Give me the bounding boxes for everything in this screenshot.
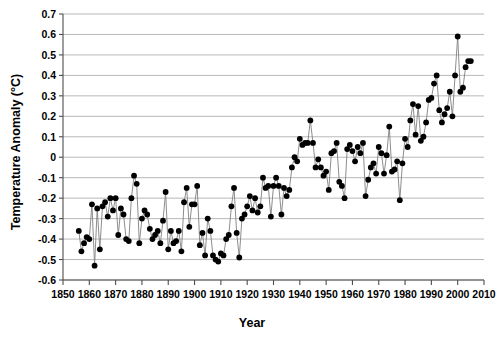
y-tick-label: 0.5	[22, 50, 56, 60]
y-tick-label: -0.2	[22, 193, 56, 203]
y-tick-label: -0.4	[22, 234, 56, 244]
x-tick-label: 2010	[464, 289, 504, 299]
y-tick-label: 0.4	[22, 70, 56, 80]
y-axis-title: Temperature Anomaly (°C)	[9, 32, 23, 272]
y-tick-label: 0.3	[22, 91, 56, 101]
y-tick-label: 0.6	[22, 29, 56, 39]
y-tick-label: 0.7	[22, 9, 56, 19]
y-tick-label: 0.1	[22, 132, 56, 142]
y-tick-label: -0.3	[22, 214, 56, 224]
y-tick-label: -0.5	[22, 255, 56, 265]
y-tick-label: 0	[22, 152, 56, 162]
y-tick-label: -0.1	[22, 173, 56, 183]
temperature-anomaly-chart: Temperature Anomaly (°C) Year -0.6-0.5-0…	[0, 0, 504, 345]
x-axis-title: Year	[0, 316, 504, 330]
series-0	[76, 34, 474, 269]
y-tick-label: -0.6	[22, 275, 56, 285]
y-tick-label: 0.2	[22, 111, 56, 121]
